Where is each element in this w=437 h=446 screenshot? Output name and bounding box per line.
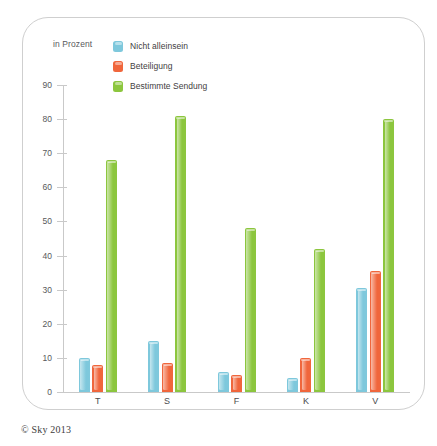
- x-axis-tick-label: K: [286, 396, 326, 406]
- y-axis-tick-mark: [57, 358, 67, 359]
- chart-plot-area: in Prozent Nicht alleinseinBeteiligungBe…: [0, 0, 437, 446]
- bar-gloss: [315, 251, 321, 390]
- bar-highlight: [384, 120, 393, 122]
- bar-highlight: [149, 342, 158, 344]
- chart-legend: Nicht alleinseinBeteiligungBestimmte Sen…: [113, 36, 207, 96]
- bar[interactable]: [287, 378, 298, 392]
- y-axis-tick-label: 10: [30, 352, 52, 362]
- legend-label: Beteiligung: [130, 61, 173, 71]
- bar-highlight: [232, 376, 241, 378]
- bar-highlight: [93, 366, 102, 368]
- y-axis-tick-label: 80: [30, 114, 52, 124]
- legend-label: Bestimmte Sendung: [130, 81, 207, 91]
- x-axis-tick-label: V: [355, 396, 395, 406]
- bar-gloss: [163, 365, 169, 390]
- chart-figure: in Prozent Nicht alleinseinBeteiligungBe…: [0, 0, 437, 446]
- y-axis-tick-label: 70: [30, 148, 52, 158]
- y-axis-tick-label: 50: [30, 216, 52, 226]
- bar[interactable]: [383, 119, 394, 392]
- y-axis-tick-mark: [57, 119, 67, 120]
- x-axis-tick-label: S: [147, 396, 187, 406]
- bar-highlight: [246, 229, 255, 231]
- bar[interactable]: [162, 363, 173, 392]
- bar-gloss: [150, 343, 156, 390]
- y-axis-tick-label: 30: [30, 284, 52, 294]
- bar-highlight: [357, 289, 366, 291]
- bar-gloss: [358, 290, 364, 390]
- bar[interactable]: [314, 249, 325, 392]
- bar-gloss: [177, 118, 183, 390]
- x-axis-tick-label: F: [217, 396, 257, 406]
- y-axis-tick-mark: [57, 290, 67, 291]
- y-axis-line: [63, 85, 64, 393]
- x-axis-tick-label: T: [78, 396, 118, 406]
- bar-gloss: [302, 360, 308, 390]
- bar-gloss: [94, 367, 100, 390]
- y-axis-tick-mark: [57, 187, 67, 188]
- legend-swatch-icon: [113, 41, 123, 52]
- legend-swatch-icon: [113, 81, 123, 92]
- legend-label: Nicht alleinsein: [130, 41, 188, 51]
- legend-item[interactable]: Nicht alleinsein: [113, 36, 207, 56]
- bar[interactable]: [245, 228, 256, 392]
- bar-highlight: [80, 359, 89, 361]
- y-axis-tick-mark: [57, 324, 67, 325]
- bar-highlight: [176, 117, 185, 119]
- bar-gloss: [246, 230, 252, 390]
- bar[interactable]: [218, 372, 229, 392]
- bar-highlight: [107, 161, 116, 163]
- y-axis-tick-mark: [57, 256, 67, 257]
- y-axis-tick-label: 20: [30, 318, 52, 328]
- bar[interactable]: [92, 365, 103, 392]
- bar-gloss: [288, 380, 294, 390]
- y-axis-tick-mark: [57, 85, 67, 86]
- y-axis-tick-mark: [57, 221, 67, 222]
- y-axis-tick-label: 90: [30, 80, 52, 90]
- legend-item[interactable]: Beteiligung: [113, 56, 207, 76]
- bar[interactable]: [175, 116, 186, 392]
- bar-gloss: [219, 374, 225, 390]
- bar[interactable]: [356, 288, 367, 392]
- bar[interactable]: [300, 358, 311, 392]
- bar-gloss: [80, 360, 86, 390]
- bar-highlight: [288, 379, 297, 381]
- legend-swatch-icon: [113, 61, 123, 72]
- bar-gloss: [371, 273, 377, 390]
- bar-highlight: [219, 373, 228, 375]
- bar-highlight: [371, 272, 380, 274]
- bar-highlight: [163, 364, 172, 366]
- bar[interactable]: [148, 341, 159, 392]
- y-axis-tick-mark: [57, 153, 67, 154]
- bar[interactable]: [79, 358, 90, 392]
- legend-item[interactable]: Bestimmte Sendung: [113, 76, 207, 96]
- copyright-credit: © Sky 2013: [21, 424, 71, 435]
- y-axis-tick-label: 60: [30, 182, 52, 192]
- bar-gloss: [385, 121, 391, 390]
- bar-highlight: [301, 359, 310, 361]
- y-axis-unit-label: in Prozent: [53, 39, 92, 49]
- bar-gloss: [233, 377, 239, 390]
- x-axis-line: [63, 392, 410, 393]
- bar[interactable]: [370, 271, 381, 392]
- y-axis-tick-label: 40: [30, 250, 52, 260]
- y-axis-tick-mark: [57, 392, 67, 393]
- bar-highlight: [315, 250, 324, 252]
- bar[interactable]: [106, 160, 117, 392]
- y-axis-tick-label: 0: [30, 387, 52, 397]
- bar[interactable]: [231, 375, 242, 392]
- bar-gloss: [107, 162, 113, 390]
